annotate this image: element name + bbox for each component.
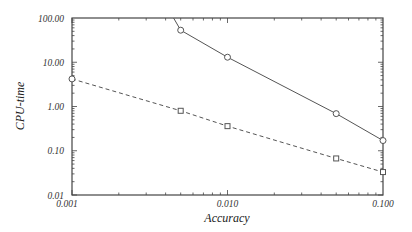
circle-marker xyxy=(333,111,339,117)
y-tick-label: 10.00 xyxy=(43,58,65,68)
x-tick-labels: 0.0010.0100.100 xyxy=(56,199,394,209)
y-tick-label: 1.00 xyxy=(47,102,64,112)
y-tick-label: 0.10 xyxy=(47,146,64,156)
circle-marker xyxy=(380,138,386,144)
circle-marker xyxy=(69,76,75,82)
circle-marker xyxy=(225,54,231,60)
chart: 0.010.101.0010.00100.00 0.0010.0100.100 … xyxy=(0,0,412,232)
square-marker xyxy=(178,108,183,113)
square-marker xyxy=(334,156,339,161)
data-series xyxy=(69,18,386,175)
x-tick-label: 0.100 xyxy=(372,199,394,209)
plot-border xyxy=(72,18,383,195)
square-marker xyxy=(381,170,386,175)
plot-frame xyxy=(72,18,383,195)
axis-ticks xyxy=(72,18,383,195)
y-tick-labels: 0.010.101.0010.00100.00 xyxy=(38,14,64,201)
series-line-solid-circle xyxy=(174,18,383,141)
x-tick-label: 0.010 xyxy=(217,199,239,209)
x-axis-title: Accuracy xyxy=(203,211,250,225)
y-tick-label: 100.00 xyxy=(38,14,64,24)
circle-marker xyxy=(178,27,184,33)
square-marker xyxy=(225,124,230,129)
y-axis-title: CPU-time xyxy=(13,81,27,130)
x-tick-label: 0.001 xyxy=(56,199,77,209)
